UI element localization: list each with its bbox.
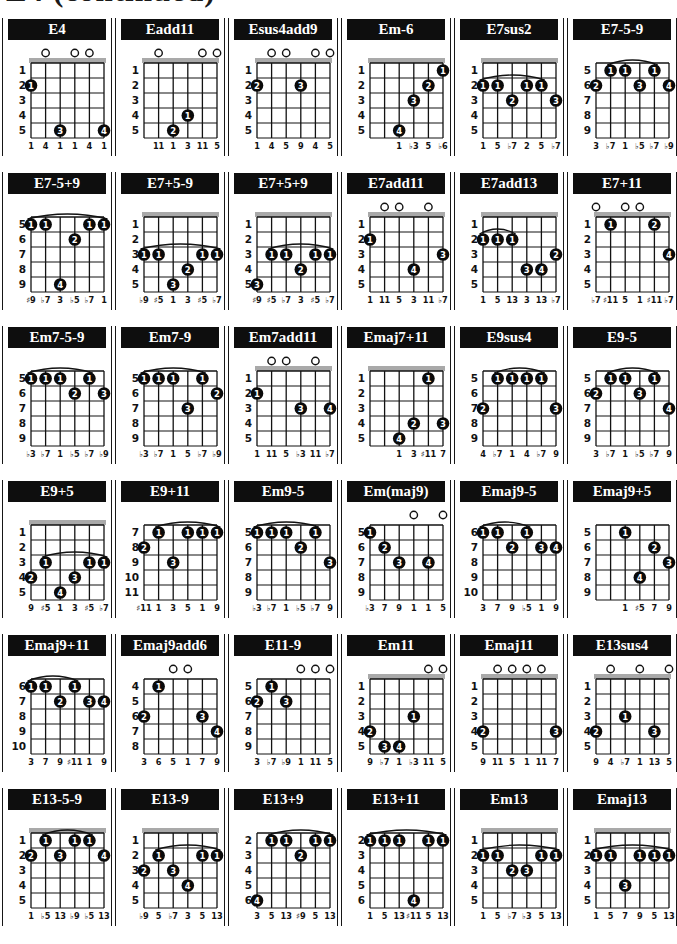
finger-number: 2 (593, 389, 599, 399)
fret-number: 6 (132, 387, 139, 399)
interval-label: 5 (283, 141, 289, 151)
interval-label: 3 (72, 603, 78, 613)
interval-label: 3 (411, 295, 417, 305)
open-string-marker (425, 665, 432, 672)
finger-number: 1 (495, 81, 501, 91)
chord-cell: E412345134141141 (2, 18, 112, 156)
interval-label: ♭7 (380, 757, 390, 767)
fret-number: 4 (358, 864, 365, 876)
chord-name-header: Em7add11 (234, 327, 332, 348)
fret-number: 8 (358, 571, 365, 583)
interval-label: 4 (524, 449, 530, 459)
interval-label: 9 (480, 757, 486, 767)
fret-number: 3 (584, 710, 591, 722)
chord-name-header: Em11 (347, 635, 445, 656)
finger-number: 2 (480, 404, 486, 414)
finger-number: 1 (637, 851, 643, 861)
finger-number: 4 (396, 434, 402, 444)
interval-label: 7 (440, 449, 446, 459)
interval-label: 1 (156, 603, 162, 613)
fretboard-diagram: 56789111123♭3♭71♭5♭79 (230, 508, 336, 618)
fretboard-diagram: 12345111123♯9♯5♭73♯5♭7 (230, 200, 336, 310)
finger-number: 1 (524, 81, 530, 91)
open-string-marker (622, 203, 629, 210)
fret-number: 10 (11, 740, 26, 752)
interval-label: 1 (101, 295, 107, 305)
fret-number: 4 (245, 109, 252, 121)
fret-number: 3 (471, 864, 478, 876)
fret-number: 3 (584, 248, 591, 260)
finger-number: 2 (593, 727, 599, 737)
fret-number: 3 (19, 94, 26, 106)
finger-number: 3 (101, 389, 107, 399)
interval-label: 7 (622, 911, 628, 921)
open-string-marker (155, 49, 162, 56)
chord-name-header: E9-5 (573, 327, 671, 348)
finger-number: 1 (622, 712, 628, 722)
fret-number: 4 (584, 263, 591, 275)
finger-number: 1 (185, 111, 191, 121)
finger-number: 2 (425, 81, 431, 91)
open-string-marker (425, 203, 432, 210)
fretboard-diagram: 7891011111123♯1113519 (117, 508, 223, 618)
finger-number: 1 (367, 235, 373, 245)
fret-number: 9 (584, 124, 591, 136)
finger-number: 1 (538, 851, 544, 861)
open-string-marker (297, 665, 304, 672)
finger-number: 2 (28, 851, 34, 861)
finger-number: 3 (170, 558, 176, 568)
open-string-marker (665, 665, 672, 672)
finger-number: 4 (396, 742, 402, 752)
interval-label: 3 (185, 295, 191, 305)
fret-number: 3 (471, 710, 478, 722)
fret-number: 4 (358, 417, 365, 429)
interval-label: 5 (170, 757, 176, 767)
interval-label: 1 (480, 141, 486, 151)
fret-number: 3 (19, 864, 26, 876)
finger-number: 4 (411, 896, 417, 906)
fretboard-diagram: 12345123413♯117 (343, 354, 449, 464)
fret-number: 2 (358, 79, 365, 91)
interval-label: ♭9 (70, 911, 80, 921)
finger-number: 1 (495, 851, 501, 861)
interval-label: 5 (608, 911, 614, 921)
finger-number: 3 (86, 697, 92, 707)
interval-label: 13 (437, 911, 449, 921)
interval-label: ♭9 (99, 449, 109, 459)
chord-name-header: E13+11 (347, 789, 445, 810)
chord-cell: E13-5-9123451112341♭513♭9♭513 (2, 788, 112, 926)
interval-label: ♭7 (154, 449, 164, 459)
fret-number: 5 (132, 124, 139, 136)
interval-label: ♭7 (606, 449, 616, 459)
fretboard-diagram: 567891111234♭714♭79 (456, 354, 562, 464)
finger-number: 1 (495, 528, 501, 538)
fret-number: 9 (584, 432, 591, 444)
fret-number: 9 (19, 725, 26, 737)
finger-number: 1 (141, 250, 147, 260)
interval-label: ♭9 (212, 449, 222, 459)
chord-cell: E7+5-912345111123♭9♯513♯5♭7 (115, 172, 225, 310)
chord-name-header: Emaj9+11 (8, 635, 106, 656)
fret-number: 5 (584, 740, 591, 752)
interval-label: ♭7 (99, 603, 109, 613)
interval-label: 13 (54, 911, 66, 921)
interval-label: 1 (170, 295, 176, 305)
interval-label: 3 (170, 603, 176, 613)
fret-number: 4 (132, 680, 139, 692)
interval-label: 11 (310, 757, 322, 767)
fret-number: 2 (358, 695, 365, 707)
finger-number: 1 (170, 374, 176, 384)
chord-name-header: Em9-5 (234, 481, 332, 502)
interval-label: ♭3 (139, 449, 149, 459)
fretboard-diagram: 12345134141141 (4, 46, 110, 156)
finger-number: 3 (199, 712, 205, 722)
finger-number: 3 (170, 866, 176, 876)
interval-label: 1 (185, 757, 191, 767)
finger-number: 3 (185, 404, 191, 414)
finger-number: 2 (509, 543, 515, 553)
finger-number: 3 (524, 866, 530, 876)
finger-number: 1 (156, 851, 162, 861)
chord-name-header: E7sus2 (460, 19, 558, 40)
fret-number: 8 (584, 417, 591, 429)
finger-number: 1 (367, 836, 373, 846)
